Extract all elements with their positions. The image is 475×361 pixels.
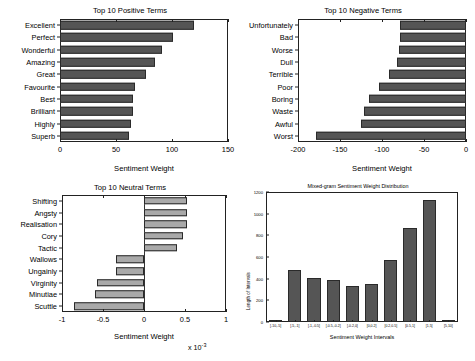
y-label-negative-9: Worst: [238, 131, 293, 140]
y-tick-neutral-5: [59, 259, 62, 260]
y-label-positive-5: Favourite: [0, 82, 55, 91]
x-tick-distribution-0: [276, 320, 277, 323]
bar-neutral-9: [74, 302, 144, 310]
x-tick-top-positive-1: [116, 19, 117, 22]
y-tick-positive-8: [57, 123, 60, 124]
x-tick-top-neutral-4: [226, 195, 227, 198]
bar-neutral-3: [144, 232, 183, 240]
bar-positive-4: [60, 70, 146, 79]
x-tick-negative-4: [466, 139, 467, 142]
y-label-neutral-7: Virginity: [0, 278, 57, 287]
y-label-positive-7: Brilliant: [0, 107, 55, 116]
bar-negative-5: [379, 82, 466, 91]
y-tick-distribution-0: [266, 322, 269, 323]
x-tick-neutral-0: [62, 309, 63, 312]
bar-neutral-5: [116, 256, 144, 264]
y-tick-positive-7: [57, 111, 60, 112]
x-label-positive-1: 50: [112, 145, 120, 154]
y-tick-distribution-3: [266, 257, 269, 258]
bar-positive-6: [60, 95, 133, 104]
x-tick-positive-3: [228, 139, 229, 142]
x-label-distribution-3: [-0.5,-0.2]: [326, 324, 341, 328]
x-label-distribution-7: [0.5,1]: [405, 324, 415, 328]
x-tick-positive-1: [116, 139, 117, 142]
x-tick-distribution-4: [352, 320, 353, 323]
x-tick-distribution-3: [333, 320, 334, 323]
bar-neutral-1: [144, 209, 187, 217]
x-label-distribution-9: [5,10]: [444, 324, 453, 328]
x-label-positive-0: 0: [58, 145, 62, 154]
x-tick-negative-3: [424, 139, 425, 142]
x-axis-exponent-neutral: x 10-3: [188, 342, 206, 352]
x-label-distribution-8: [1,5]: [426, 324, 433, 328]
x-tick-neutral-3: [185, 309, 186, 312]
y-label-distribution-5: 1000: [238, 211, 263, 216]
figure-canvas: Top 10 Positive Terms Sentiment Weight E…: [0, 0, 475, 361]
y-label-positive-0: Excellent: [0, 21, 55, 30]
y-label-distribution-6: 1200: [238, 190, 263, 195]
x-axis-title-negative: Sentiment Weight: [298, 164, 466, 173]
y-label-distribution-0: 0: [238, 320, 263, 325]
y-label-negative-4: Terrible: [238, 70, 293, 79]
x-tick-top-neutral-3: [185, 195, 186, 198]
y-tick-positive-5: [57, 86, 60, 87]
x-tick-top-neutral-2: [144, 195, 145, 198]
chart-title-distribution: Mixed-gram Sentiment Weight Distribution: [258, 183, 458, 189]
x-label-negative-1: -150: [333, 145, 348, 154]
bar-neutral-2: [144, 221, 187, 229]
x-tick-neutral-1: [103, 309, 104, 312]
y-label-negative-0: Unfortunately: [238, 21, 293, 30]
x-tick-top-negative-0: [298, 19, 299, 22]
x-tick-neutral-2: [144, 309, 145, 312]
y-tick-negative-7: [295, 111, 298, 112]
chart-title-neutral: Top 10 Neutral Terms: [30, 183, 230, 192]
x-label-distribution-4: [-0.2,0]: [347, 324, 358, 328]
y-tick-negative-5: [295, 86, 298, 87]
x-label-distribution-2: [-1,-0.5]: [308, 324, 320, 328]
bar-negative-1: [400, 33, 466, 42]
x-tick-distribution-1: [295, 320, 296, 323]
x-tick-top-positive-3: [228, 19, 229, 22]
x-tick-top-negative-1: [340, 19, 341, 22]
bar-distribution-2: [307, 278, 320, 322]
x-tick-distribution-2: [314, 320, 315, 323]
y-tick-positive-2: [57, 49, 60, 50]
x-tick-negative-0: [298, 139, 299, 142]
y-tick-positive-4: [57, 74, 60, 75]
bar-negative-8: [361, 119, 466, 128]
y-tick-negative-4: [295, 74, 298, 75]
x-axis-title-distribution: Sentiment Weight Intervals: [266, 334, 458, 340]
chart-panel-neutral: Top 10 Neutral Terms Sentiment Weight x …: [0, 182, 238, 361]
y-tick-negative-1: [295, 37, 298, 38]
y-tick-neutral-2: [59, 224, 62, 225]
x-tick-negative-2: [382, 139, 383, 142]
y-tick-positive-9: [57, 135, 60, 136]
bar-positive-2: [60, 46, 162, 55]
bar-positive-7: [60, 107, 133, 116]
y-label-negative-1: Bad: [238, 33, 293, 42]
x-label-negative-4: 0: [464, 145, 468, 154]
bar-positive-5: [60, 82, 135, 91]
bar-negative-2: [399, 46, 466, 55]
y-label-distribution-3: 600: [238, 255, 263, 260]
chart-title-negative: Top 10 Negative Terms: [263, 6, 463, 15]
y-label-positive-1: Perfect: [0, 33, 55, 42]
y-tick-positive-1: [57, 37, 60, 38]
y-label-neutral-3: Cory: [0, 231, 57, 240]
bar-negative-7: [364, 107, 466, 116]
y-tick-distribution-4: [266, 235, 269, 236]
y-label-distribution-4: 800: [238, 233, 263, 238]
x-tick-top-positive-0: [60, 19, 61, 22]
x-label-distribution-1: [-5,-1]: [290, 324, 299, 328]
y-label-negative-6: Boring: [238, 94, 293, 103]
y-label-positive-8: Highly: [0, 119, 55, 128]
y-tick-negative-2: [295, 49, 298, 50]
chart-panel-distribution: Mixed-gram Sentiment Weight Distribution…: [238, 182, 475, 361]
x-axis-title-neutral: Sentiment Weight: [62, 332, 226, 341]
bar-negative-4: [389, 70, 466, 79]
y-label-neutral-5: Wallows: [0, 255, 57, 264]
bar-distribution-1: [288, 270, 301, 322]
y-tick-positive-3: [57, 62, 60, 63]
y-tick-neutral-3: [59, 235, 62, 236]
bar-distribution-3: [327, 280, 340, 322]
